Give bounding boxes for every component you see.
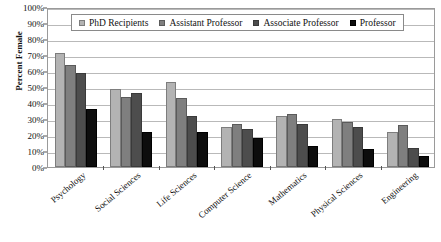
- legend-item: PhD Recipients: [79, 18, 148, 28]
- x-axis-tick-label-text: Social Sciences: [93, 170, 143, 214]
- y-axis-tick-label: 30%: [14, 116, 44, 125]
- y-axis-tick-label: 40%: [14, 100, 44, 109]
- plot-area: [47, 8, 435, 168]
- x-axis-tick-label-text: Mathematics: [267, 170, 309, 208]
- y-axis-tick-label: 90%: [14, 20, 44, 29]
- x-axis-tick-labels: PsychologySocial SciencesLife SciencesCo…: [0, 170, 441, 242]
- x-axis-separators: [48, 9, 434, 167]
- legend-label: PhD Recipients: [89, 18, 148, 28]
- y-axis-tick-label: 50%: [14, 84, 44, 93]
- legend-label: Associate Professor: [263, 18, 338, 28]
- x-axis-tick-label-text: Engineering: [380, 170, 420, 206]
- bar-chart: Percent Female 0%10%20%30%40%50%60%70%80…: [0, 0, 441, 242]
- legend-swatch-icon: [79, 20, 85, 26]
- y-axis-tick-label: 100%: [14, 4, 44, 13]
- legend-swatch-icon: [159, 20, 165, 26]
- legend-swatch-icon: [350, 20, 356, 26]
- y-axis-tick-label: 70%: [14, 52, 44, 61]
- legend-swatch-icon: [253, 20, 259, 26]
- x-axis-tick-label-text: Computer Science: [196, 170, 253, 220]
- chart-legend: PhD RecipientsAssistant ProfessorAssocia…: [71, 14, 404, 31]
- x-axis-tick-label-text: Life Sciences: [154, 170, 198, 209]
- legend-label: Assistant Professor: [169, 18, 242, 28]
- legend-label: Professor: [360, 18, 396, 28]
- y-axis-tick-labels: 0%10%20%30%40%50%60%70%80%90%100%: [14, 8, 44, 168]
- legend-item: Associate Professor: [253, 18, 338, 28]
- x-axis-tick-label-text: Physical Sciences: [309, 170, 365, 219]
- legend-item: Professor: [350, 18, 396, 28]
- y-axis-tick-label: 60%: [14, 68, 44, 77]
- x-axis-tick-label-text: Psychology: [49, 170, 88, 205]
- y-axis-tick-label: 10%: [14, 148, 44, 157]
- y-axis-tick-label: 80%: [14, 36, 44, 45]
- legend-item: Assistant Professor: [159, 18, 242, 28]
- y-axis-tick-label: 20%: [14, 132, 44, 141]
